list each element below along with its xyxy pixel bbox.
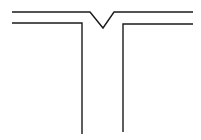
- t-joint-diagram: [0, 0, 201, 140]
- left-plate-edge: [12, 23, 82, 134]
- right-plate-edge: [123, 24, 193, 132]
- top-plate-upper-edge-with-groove: [12, 12, 193, 28]
